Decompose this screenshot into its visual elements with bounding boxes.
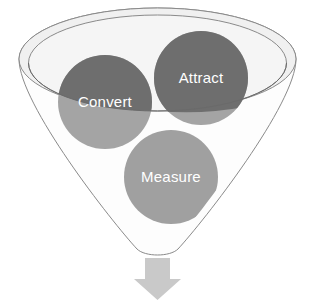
stage-label-convert: Convert [78,93,133,110]
stage-label-attract: Attract [179,69,224,86]
funnel-diagram-canvas: Convert Attract Measure [0,0,315,305]
stage-label-measure: Measure [141,168,201,185]
funnel-diagram: Convert Attract Measure [0,0,315,305]
down-arrow-icon [134,258,181,300]
